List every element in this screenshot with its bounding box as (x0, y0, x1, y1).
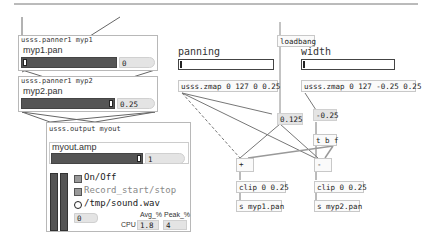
panner2-param-label: myp2.pan (23, 86, 63, 96)
plus-object[interactable]: + (236, 158, 254, 172)
clip1-object[interactable]: clip 0 0.25 (236, 181, 286, 193)
avg-label: Avg_% (140, 211, 162, 218)
width-label: width (301, 46, 331, 57)
width-slider[interactable] (301, 59, 395, 70)
panner2-value[interactable]: 0.25 (117, 98, 155, 109)
output-title: usss.output myout (49, 125, 121, 133)
cpu-peak-value: 4 (163, 220, 187, 230)
panner2-bpatcher: usss.panner1 myp2 myp2.pan 0.25 (18, 76, 158, 112)
record-label: Record_start/stop (84, 185, 176, 195)
slider-knob[interactable] (303, 61, 305, 68)
slider-knob[interactable] (109, 100, 113, 107)
slider-knob[interactable] (23, 59, 27, 66)
send2-object[interactable]: s myp2.pan (314, 200, 360, 212)
peak-label: Peak_% (164, 211, 190, 218)
zmap-width-object[interactable]: usss.zmap 0 127 -0.25 0.25 (301, 80, 416, 92)
panner1-param-label: myp1.pan (23, 45, 63, 55)
panner2-slider[interactable] (21, 98, 115, 109)
panning-slider[interactable] (178, 59, 274, 70)
level-meter-left (50, 173, 58, 231)
record-toggle[interactable] (74, 188, 82, 196)
trigger-object[interactable]: t b f (313, 134, 337, 146)
cpu-label: CPU (121, 221, 136, 228)
file-select-button[interactable] (74, 201, 82, 209)
panner1-title: usss.panner1 myp1 (21, 36, 93, 44)
clip2-object[interactable]: clip 0 0.25 (314, 181, 364, 193)
zmap-panning-object[interactable]: usss.zmap 0 127 0 0.25 (178, 80, 278, 92)
amp-slider[interactable] (51, 153, 143, 164)
cpu-avg-value: 1.8 (137, 220, 159, 230)
file-label: /tmp/sound.wav (84, 198, 160, 208)
amp-param-label: myout.amp (52, 142, 97, 152)
amp-value[interactable]: 1 (145, 153, 185, 164)
send1-object[interactable]: s myp1.pan (236, 200, 282, 212)
panner1-value[interactable]: 0 (119, 57, 155, 68)
number-neg025[interactable]: -0.25 (313, 109, 337, 121)
onoff-toggle[interactable] (74, 175, 82, 183)
counter-value[interactable]: 0 (74, 213, 98, 223)
panning-label: panning (178, 46, 220, 57)
onoff-label: On/Off (84, 172, 117, 182)
minus-object[interactable]: - (314, 158, 332, 172)
panner2-title: usss.panner1 myp2 (21, 77, 93, 85)
level-meter-right (60, 173, 68, 231)
slider-knob[interactable] (180, 61, 182, 68)
panner1-bpatcher: usss.panner1 myp1 myp1.pan 0 (18, 35, 158, 71)
output-bpatcher: usss.output myout myout.amp 1 On/Off Rec… (46, 122, 191, 232)
slider-knob[interactable] (137, 155, 141, 162)
panner1-slider[interactable] (21, 57, 117, 68)
number-0125[interactable]: 0.125 (277, 113, 303, 125)
